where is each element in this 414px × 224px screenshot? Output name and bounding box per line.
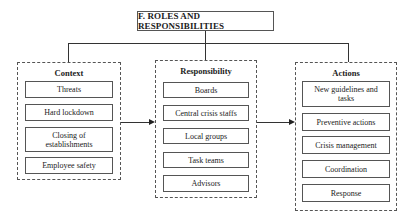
- responsibility-item-advisors: Advisors: [163, 175, 249, 192]
- context-item-threats: Threats: [25, 81, 113, 98]
- context-item-employee-safety: Employee safety: [25, 157, 113, 174]
- arrow-responsibility-to-actions-line: [257, 122, 289, 123]
- actions-heading: Actions: [296, 68, 396, 78]
- responsibility-item-local-groups: Local groups: [163, 128, 249, 144]
- responsibility-heading: Responsibility: [156, 66, 256, 76]
- arrow-context-to-responsibility-line: [121, 122, 149, 123]
- connector-to-actions: [348, 43, 349, 62]
- diagram-title: F. ROLES AND RESPONSIBILITIES: [137, 11, 274, 31]
- connector-horizontal-top: [68, 43, 349, 44]
- connector-title-down: [205, 31, 206, 60]
- actions-item-new-guidelines-and-tasks: New guidelines and tasks: [302, 81, 390, 107]
- actions-item-preventive-actions: Preventive actions: [302, 113, 390, 131]
- responsibility-item-task-teams: Task teams: [163, 152, 249, 168]
- context-heading: Context: [18, 68, 120, 78]
- context-item-closing-of-establishments: Closing of establishments: [25, 127, 113, 152]
- responsibility-item-central-crisis-staffs: Central crisis staffs: [163, 105, 249, 121]
- connector-to-context: [68, 43, 69, 62]
- context-item-hard-lockdown: Hard lockdown: [25, 104, 113, 121]
- actions-item-crisis-management: Crisis management: [302, 136, 390, 154]
- actions-item-response: Response: [302, 184, 390, 202]
- responsibility-item-boards: Boards: [163, 82, 249, 98]
- actions-item-coordination: Coordination: [302, 160, 390, 178]
